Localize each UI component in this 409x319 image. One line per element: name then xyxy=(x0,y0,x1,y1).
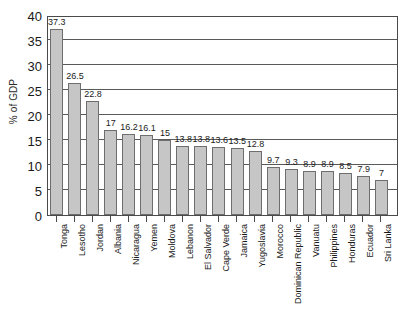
bar xyxy=(68,83,81,216)
category-label: Yugoslavia xyxy=(258,224,267,268)
y-axis-tick-labels: 0510152025303540 xyxy=(16,16,42,216)
bar-group: 8.5 xyxy=(339,15,352,215)
bar-value-label: 8.9 xyxy=(321,160,334,169)
category-label: Ecuador xyxy=(366,224,375,258)
category-label: Lebanon xyxy=(186,224,195,259)
bar xyxy=(285,169,298,216)
y-tick-label: 0 xyxy=(16,210,42,223)
x-axis-category-labels: TongaLesothoJordanAlbaniaNicaraguaYemenM… xyxy=(47,224,398,319)
bar-group: 26.5 xyxy=(68,15,81,215)
y-tick-label: 40 xyxy=(16,10,42,23)
bar-group: 9.3 xyxy=(285,15,298,215)
bar xyxy=(104,130,117,215)
category-label: Moldova xyxy=(168,224,177,258)
bar-group: 13.8 xyxy=(194,15,207,215)
bar-group: 12.8 xyxy=(249,15,262,215)
bar xyxy=(267,167,280,216)
bar-value-label: 26.5 xyxy=(66,72,84,81)
bar xyxy=(231,148,244,216)
tick-mark xyxy=(362,216,363,222)
bar-group: 8.9 xyxy=(321,15,334,215)
bar-group: 17 xyxy=(104,15,117,215)
bar xyxy=(375,180,388,215)
bar xyxy=(122,134,135,215)
tick-mark xyxy=(308,216,309,222)
tick-mark xyxy=(326,216,327,222)
bar-group: 7.9 xyxy=(357,15,370,215)
bar xyxy=(86,101,99,215)
y-tick-label: 5 xyxy=(16,185,42,198)
bar xyxy=(176,146,189,215)
bar-group: 13.5 xyxy=(231,15,244,215)
tick-mark xyxy=(74,216,75,222)
tick-mark xyxy=(290,216,291,222)
tick-mark xyxy=(110,216,111,222)
bar-value-label: 7.9 xyxy=(357,165,370,174)
tick-mark xyxy=(344,216,345,222)
category-label: Vanuatu xyxy=(312,224,321,257)
tick-mark xyxy=(182,216,183,222)
bar-value-label: 8.9 xyxy=(303,160,316,169)
bar-value-label: 13.6 xyxy=(211,136,229,145)
bar xyxy=(303,171,316,216)
category-label: Jamaica xyxy=(240,224,249,258)
bar-group: 9.7 xyxy=(267,15,280,215)
bar-value-label: 15 xyxy=(160,129,170,138)
bar-group: 8.9 xyxy=(303,15,316,215)
category-label: Lesotho xyxy=(78,224,87,256)
tick-mark xyxy=(146,216,147,222)
category-label: Cape Verde xyxy=(222,224,231,272)
bar xyxy=(321,171,334,216)
tick-mark xyxy=(254,216,255,222)
bar-value-label: 37.3 xyxy=(48,18,66,27)
bar xyxy=(212,147,225,215)
tick-mark xyxy=(200,216,201,222)
category-label: Nicaragua xyxy=(132,224,141,265)
bar-group: 7 xyxy=(375,15,388,215)
bar-value-label: 16.2 xyxy=(120,123,138,132)
category-label: Yemen xyxy=(150,224,159,252)
category-label: Jordan xyxy=(96,224,105,252)
tick-mark xyxy=(218,216,219,222)
bar-value-label: 9.7 xyxy=(267,156,280,165)
tick-mark xyxy=(380,216,381,222)
bar-value-label: 7 xyxy=(379,169,384,178)
x-axis-tick-marks xyxy=(47,216,398,223)
bar-value-label: 16.1 xyxy=(138,124,156,133)
category-label: Sri Lanka xyxy=(384,224,393,262)
bar-group: 16.1 xyxy=(140,15,153,215)
bar-value-label: 13.8 xyxy=(192,135,210,144)
y-tick-label: 35 xyxy=(16,35,42,48)
bar-group: 16.2 xyxy=(122,15,135,215)
tick-mark xyxy=(164,216,165,222)
category-label: Philippines xyxy=(330,224,339,268)
category-label: Albania xyxy=(114,224,123,254)
bar-value-label: 8.5 xyxy=(339,162,352,171)
bar-value-label: 12.8 xyxy=(247,140,265,149)
bar xyxy=(140,135,153,216)
tick-mark xyxy=(272,216,273,222)
bar-value-label: 9.3 xyxy=(285,158,298,167)
y-tick-label: 30 xyxy=(16,60,42,73)
category-label: El Salvador xyxy=(204,224,213,270)
y-tick-label: 20 xyxy=(16,110,42,123)
bar-group: 22.8 xyxy=(86,15,99,215)
bar-group: 13.8 xyxy=(176,15,189,215)
category-label: Honduras xyxy=(348,224,357,263)
y-tick-label: 25 xyxy=(16,85,42,98)
category-label: Tonga xyxy=(60,224,69,249)
bars-layer: 37.326.522.81716.216.11513.813.813.613.5… xyxy=(48,17,397,215)
tick-mark xyxy=(128,216,129,222)
bar xyxy=(339,173,352,216)
bar xyxy=(194,146,207,215)
plot-area: 37.326.522.81716.216.11513.813.813.613.5… xyxy=(47,16,398,216)
bar-value-label: 22.8 xyxy=(84,90,102,99)
category-label: Morocco xyxy=(276,224,285,259)
tick-mark xyxy=(236,216,237,222)
bar xyxy=(249,151,262,215)
bar-group: 37.3 xyxy=(50,15,63,215)
bar-group: 13.6 xyxy=(212,15,225,215)
bar-value-label: 17 xyxy=(106,119,116,128)
bar-value-label: 13.5 xyxy=(229,137,247,146)
bar-value-label: 13.8 xyxy=(174,135,192,144)
